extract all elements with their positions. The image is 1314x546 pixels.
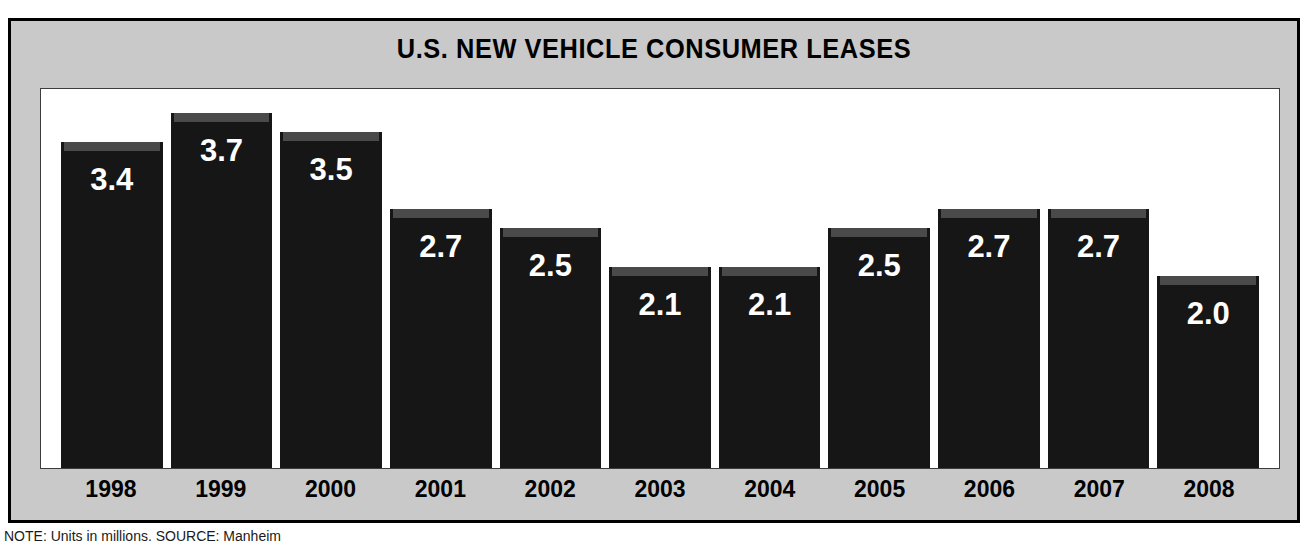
chart-figure: U.S. NEW VEHICLE CONSUMER LEASES 3.43.73… [0, 0, 1314, 546]
bar-value-label: 2.5 [529, 250, 572, 468]
bar-value-label: 3.7 [200, 135, 243, 468]
bar-value-label: 2.7 [967, 231, 1010, 468]
x-axis-label: 1999 [170, 476, 272, 503]
bar: 2.7 [938, 209, 1040, 468]
bar: 3.7 [171, 113, 273, 468]
bar: 2.1 [609, 267, 711, 468]
x-axis-label: 1998 [60, 476, 162, 503]
bar-value-label: 2.1 [748, 289, 791, 468]
bar: 2.5 [828, 228, 930, 468]
bar-series: 3.43.73.52.72.52.12.12.52.72.72.0 [41, 89, 1279, 468]
bar: 2.7 [1048, 209, 1150, 468]
bar: 2.7 [390, 209, 492, 468]
bar-value-label: 2.7 [1077, 231, 1120, 468]
bar: 2.1 [719, 267, 821, 468]
bar-value-label: 2.0 [1187, 298, 1230, 468]
x-axis-label: 2007 [1048, 476, 1150, 503]
bar: 3.4 [61, 142, 163, 468]
bar: 3.5 [280, 132, 382, 468]
x-axis-label: 2005 [829, 476, 931, 503]
bar-value-label: 3.4 [90, 164, 133, 468]
bar-value-label: 2.7 [419, 231, 462, 468]
x-axis-label: 2008 [1158, 476, 1260, 503]
bar-value-label: 2.5 [858, 250, 901, 468]
x-axis-label: 2002 [499, 476, 601, 503]
plot-area: 3.43.73.52.72.52.12.12.52.72.72.0 [40, 88, 1280, 469]
chart-footnote: NOTE: Units in millions. SOURCE: Manheim [4, 528, 281, 544]
bar-value-label: 2.1 [638, 289, 681, 468]
x-axis-label: 2004 [719, 476, 821, 503]
x-axis-label: 2003 [609, 476, 711, 503]
x-axis-label: 2001 [389, 476, 491, 503]
x-axis-label: 2006 [939, 476, 1041, 503]
x-axis-labels: 1998199920002001200220032004200520062007… [40, 469, 1280, 509]
chart-frame: U.S. NEW VEHICLE CONSUMER LEASES 3.43.73… [8, 18, 1300, 523]
chart-title: U.S. NEW VEHICLE CONSUMER LEASES [50, 34, 1259, 65]
bar-value-label: 3.5 [310, 154, 353, 468]
bar: 2.0 [1157, 276, 1259, 468]
bar: 2.5 [500, 228, 602, 468]
x-axis-label: 2000 [280, 476, 382, 503]
